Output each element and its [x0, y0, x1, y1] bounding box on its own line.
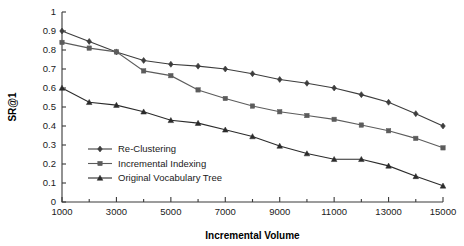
data-point: [277, 76, 282, 82]
data-point: [441, 123, 446, 129]
data-point: [359, 123, 363, 127]
data-point: [413, 111, 418, 117]
data-point: [87, 38, 92, 44]
data-point: [169, 61, 174, 67]
y-tick-label: 0.5: [43, 101, 56, 112]
x-axis-title: Incremental Volume: [205, 230, 300, 241]
data-point: [196, 63, 201, 69]
series-1: [60, 28, 446, 129]
legend-entry-2: [88, 161, 112, 165]
y-tick-label: 0.8: [43, 44, 56, 55]
data-point: [278, 110, 282, 114]
x-tick-label: 7000: [215, 206, 236, 217]
chart-canvas: 00.10.20.30.40.50.60.70.80.9110003000500…: [0, 0, 464, 246]
y-tick-label: 0.3: [43, 139, 56, 150]
data-point: [386, 99, 391, 105]
series-line-1: [62, 31, 443, 126]
y-tick-label: 0.7: [43, 63, 56, 74]
data-point: [196, 88, 200, 92]
data-point: [332, 85, 337, 91]
data-point: [169, 73, 173, 77]
x-tick-label: 15000: [430, 206, 456, 217]
y-tick-label: 0.9: [43, 25, 56, 36]
data-point: [305, 80, 310, 86]
y-tick-label: 0.2: [43, 158, 56, 169]
chart-figure: 00.10.20.30.40.50.60.70.80.9110003000500…: [0, 0, 464, 246]
legend-entry-1: [88, 146, 112, 152]
x-tick-label: 1000: [51, 206, 72, 217]
legend-label-2: Incremental Indexing: [118, 158, 206, 169]
legend-entry-3: [88, 175, 112, 180]
legend-marker-1: [98, 146, 103, 152]
x-tick-label: 5000: [160, 206, 181, 217]
data-point: [141, 57, 146, 63]
data-point: [223, 96, 227, 100]
series-line-2: [62, 42, 443, 147]
legend-label-3: Original Vocabulary Tree: [118, 172, 222, 183]
data-point: [141, 69, 145, 73]
data-point: [250, 104, 254, 108]
y-tick-label: 0.4: [43, 120, 56, 131]
x-tick-label: 13000: [375, 206, 401, 217]
legend-label-1: Re-Clustering: [118, 143, 176, 154]
data-point: [386, 129, 390, 133]
data-point: [223, 66, 228, 72]
data-point: [60, 40, 64, 44]
y-tick-label: 0.6: [43, 82, 56, 93]
legend-marker-2: [98, 161, 102, 165]
x-tick-label: 11000: [321, 206, 347, 217]
data-point: [60, 28, 65, 34]
x-tick-label: 3000: [106, 206, 127, 217]
x-tick-label: 9000: [269, 206, 290, 217]
data-point: [87, 46, 91, 50]
data-point: [332, 117, 336, 121]
y-tick-label: 1: [51, 6, 56, 17]
data-point: [441, 146, 445, 150]
y-axis-title: SR@1: [7, 92, 18, 122]
data-point: [114, 50, 118, 54]
data-point: [414, 136, 418, 140]
data-point: [250, 71, 255, 77]
data-point: [359, 92, 364, 98]
y-tick-label: 0.1: [43, 177, 56, 188]
data-point: [305, 113, 309, 117]
